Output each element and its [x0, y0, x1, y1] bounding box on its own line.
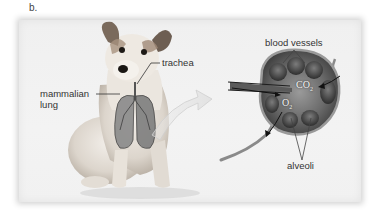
o2-label: O2 [282, 97, 292, 110]
mammalian-lung-label-line1: mammalian [40, 89, 89, 99]
mammalian-lung-label-line2: lung [40, 100, 58, 110]
alveoli-illustration [221, 50, 340, 160]
co2-label: CO2 [296, 79, 313, 92]
blood-vessels-label: blood vessels [265, 38, 323, 48]
trachea-label: trachea [162, 58, 194, 68]
alveoli-label: alveoli [287, 161, 314, 171]
